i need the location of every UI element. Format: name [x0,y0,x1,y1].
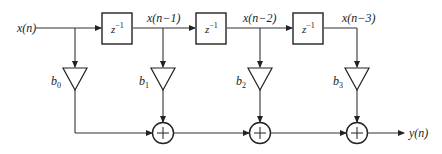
fir-filter-diagram: x(n) z−1 z−1 z−1 x(n−1) x(n−2) x(n−3) b0… [0,0,442,154]
adder-2 [250,123,271,144]
gain-b2: b2 [236,68,272,90]
delay-block-3: z−1 [293,13,323,44]
svg-text:b3: b3 [333,74,343,90]
signal-label-x-n-2: x(n−2) [242,11,276,25]
gain-b3: b3 [333,68,369,90]
svg-text:b1: b1 [139,74,149,90]
delay-block-1: z−1 [102,13,132,44]
svg-text:b0: b0 [51,74,61,90]
gain-b1: b1 [139,68,175,90]
signal-label-x-n-1: x(n−1) [146,11,180,25]
signal-label-x-n-3: x(n−3) [341,11,375,25]
output-label: y(n) [408,126,428,140]
svg-text:b2: b2 [236,74,246,90]
input-label: x(n) [16,21,36,35]
adder-3 [347,123,368,144]
adder-1 [153,123,174,144]
gain-b0: b0 [51,68,87,90]
delay-block-2: z−1 [196,13,226,44]
